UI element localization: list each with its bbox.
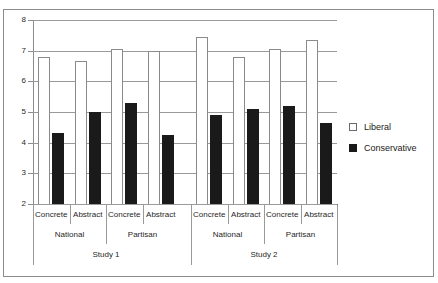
category-level1-abstract-5: Abstract [228,205,265,224]
category-axis-level-2: NationalPartisanNationalPartisan [33,224,337,244]
category-level2-separator-3 [264,224,265,244]
category-level2-separator-1 [106,224,107,244]
y-tick-3 [28,173,33,174]
y-tick-6 [28,81,33,82]
bar-conservative-2 [125,103,137,204]
category-level1-abstract-3: Abstract [143,205,180,224]
y-tick-4 [28,143,33,144]
bar-conservative-7 [320,123,332,204]
category-level2-partisan-1: Partisan [106,224,179,244]
bar-liberal-1 [75,61,87,204]
category-level1-concrete-4: Concrete [191,205,228,224]
y-tick-label-8: 8 [22,16,26,24]
y-tick-label-3: 3 [22,169,26,177]
category-level3-study-2-1: Study 2 [191,244,337,265]
legend-swatch-open-square-icon [349,123,357,131]
plot-area: 2345678 [33,20,337,204]
y-tick-label-4: 4 [22,139,26,147]
y-tick-5 [28,112,33,113]
category-level1-separator-1 [70,205,71,224]
category-level3-study-1-0: Study 1 [33,244,179,265]
category-level1-separator-2 [106,205,107,224]
bar-conservative-4 [210,115,222,204]
bar-liberal-3 [148,51,160,204]
category-level1-abstract-7: Abstract [301,205,338,224]
category-axis-level-1: ConcreteAbstractConcreteAbstractConcrete… [33,205,337,224]
bar-liberal-2 [111,49,123,204]
y-tick-label-5: 5 [22,108,26,116]
legend-label-conservative: Conservative [364,143,417,153]
category-level2-separator-0 [33,224,34,244]
y-tick-7 [28,51,33,52]
category-level2-separator-4 [337,224,338,244]
bar-conservative-6 [283,106,295,204]
category-level1-separator-8 [337,205,338,224]
chart-legend: Liberal Conservative [349,122,435,164]
category-level1-concrete-2: Concrete [106,205,143,224]
y-tick-8 [28,20,33,21]
legend-swatch-filled-square-icon [349,144,357,152]
y-tick-label-7: 7 [22,47,26,55]
category-level1-separator-7 [301,205,302,224]
category-level1-separator-3 [143,205,144,224]
category-level2-separator-2 [191,224,192,244]
bar-conservative-0 [52,133,64,204]
bar-liberal-6 [269,49,281,204]
category-level3-separator-0 [33,244,34,265]
category-level1-separator-0 [33,205,34,224]
category-level2-partisan-3: Partisan [264,224,337,244]
category-level1-separator-4 [191,205,192,224]
category-level2-national-0: National [33,224,106,244]
category-axis-level-3: Study 1Study 2 [33,244,337,265]
legend-label-liberal: Liberal [364,122,391,132]
category-level1-abstract-1: Abstract [70,205,107,224]
y-tick-label-6: 6 [22,77,26,85]
category-level1-concrete-0: Concrete [33,205,70,224]
category-level3-separator-2 [337,244,338,265]
category-level3-separator-1 [191,244,192,265]
legend-item-conservative: Conservative [349,143,435,153]
chart-figure: 2345678 ConcreteAbstractConcreteAbstract… [0,0,438,283]
bar-liberal-7 [306,40,318,204]
category-level2-national-2: National [191,224,264,244]
category-level1-concrete-6: Concrete [264,205,301,224]
bar-liberal-5 [233,57,245,204]
legend-item-liberal: Liberal [349,122,435,132]
category-level1-separator-5 [228,205,229,224]
gridline-7: 7 [33,51,337,52]
bar-conservative-5 [247,109,259,204]
bar-liberal-4 [196,37,208,204]
y-tick-label-2: 2 [22,200,26,208]
gridline-8: 8 [33,20,337,21]
category-level1-separator-6 [264,205,265,224]
bar-conservative-3 [162,135,174,204]
bar-liberal-0 [38,57,50,204]
bar-conservative-1 [89,112,101,204]
